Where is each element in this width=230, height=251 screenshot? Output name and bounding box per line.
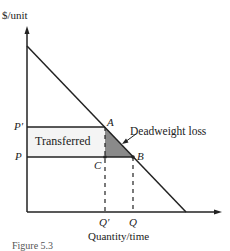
y-axis-arrow-icon — [25, 26, 30, 34]
transferred-label: Transferred — [35, 136, 91, 147]
deadweight-arrow-icon — [122, 139, 129, 145]
x-axis-arrow-icon — [214, 210, 222, 215]
figure-caption: Figure 5.3 — [12, 240, 53, 251]
q-label: Q — [129, 217, 137, 228]
point-b-label: B — [137, 151, 144, 162]
p-label: P — [15, 151, 22, 162]
deadweight-loss-label: Deadweight loss — [130, 126, 206, 137]
point-c-label: C — [94, 160, 101, 171]
x-axis-label: Quantity/time — [88, 231, 149, 242]
y-axis-label: $/unit — [2, 10, 28, 21]
p-prime-label: P′ — [14, 121, 23, 132]
q-prime-label: Q′ — [99, 217, 109, 228]
point-b-dot — [131, 155, 135, 159]
point-c-dot — [103, 155, 107, 159]
point-a-label: A — [107, 117, 114, 128]
